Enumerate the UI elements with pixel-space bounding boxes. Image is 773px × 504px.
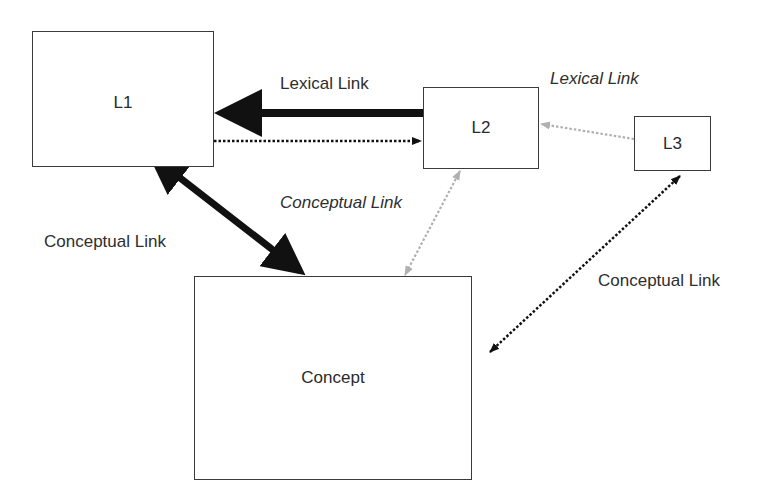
l2-label: L2: [472, 118, 491, 138]
l3-label: L3: [663, 134, 682, 154]
conceptual-link-label-l1-concept: Conceptual Link: [44, 232, 166, 252]
l1-label: L1: [114, 93, 133, 113]
l2-box: L2: [423, 87, 539, 169]
lexical-link-l3-to-l2-arrow: [541, 124, 634, 139]
l3-box: L3: [634, 116, 711, 171]
lexical-link-label-l3-l2: Lexical Link: [550, 69, 639, 89]
conceptual-link-l1-concept-arrow: [175, 174, 300, 271]
concept-box: Concept: [194, 276, 472, 480]
lexical-link-label-l2-l1: Lexical Link: [280, 74, 369, 94]
conceptual-link-l3-concept-arrow: [490, 176, 680, 352]
l1-box: L1: [32, 31, 214, 167]
conceptual-link-label-l3-concept: Conceptual Link: [598, 271, 720, 291]
conceptual-link-l2-concept-arrow: [405, 171, 460, 275]
conceptual-link-label-l2-concept: Conceptual Link: [280, 193, 402, 213]
concept-label: Concept: [301, 368, 364, 388]
